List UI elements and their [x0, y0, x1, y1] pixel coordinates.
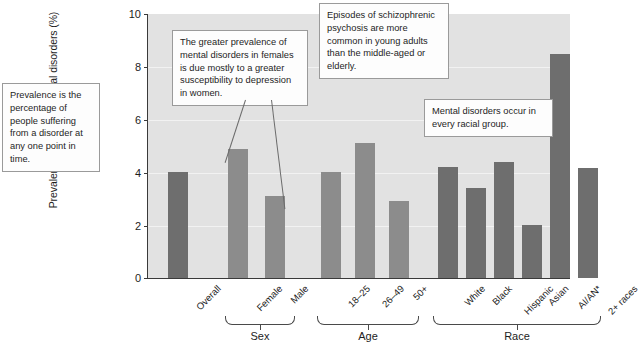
bracket-sex	[225, 316, 295, 325]
bar-female	[228, 149, 248, 278]
callout-age-psychosis: Episodes of schizophrenic psychosis are …	[319, 3, 449, 79]
group-label-age: Age	[358, 330, 378, 342]
bar-race-ai-an	[550, 54, 570, 278]
x-label-age-50-plus: 50+	[411, 283, 430, 302]
bracket-race	[433, 316, 601, 325]
x-label-male: Male	[288, 283, 310, 305]
group-label-race: Race	[504, 330, 530, 342]
bar-race-black	[466, 188, 486, 278]
x-label-race-ai-an: AI/AN*	[575, 283, 603, 311]
ytick-label-4: 4	[114, 167, 148, 179]
x-label-race-black: Black	[490, 283, 514, 307]
bar-age-26-49	[355, 143, 375, 278]
x-label-female: Female	[254, 283, 284, 313]
callout-text: Episodes of schizophrenic psychosis are …	[327, 9, 441, 73]
callout-text: The greater prevalence of mental disorde…	[180, 36, 300, 100]
ytick-label-8: 8	[114, 61, 148, 73]
x-label-race-white: White	[462, 283, 487, 308]
x-label-age-18-25: 18–25	[346, 283, 372, 309]
bar-age-50-plus	[389, 201, 409, 278]
ytick-label-10: 10	[114, 8, 148, 20]
ytick-label-0: 0	[114, 272, 148, 284]
bar-age-18-25	[321, 172, 341, 278]
callout-sex-difference: The greater prevalence of mental disorde…	[172, 30, 308, 106]
x-label-race-2-plus: 2+ races	[606, 283, 639, 317]
callout-text: Mental disorders occur in every racial g…	[432, 105, 545, 131]
bar-race-white	[438, 167, 458, 278]
ytick-label-2: 2	[114, 220, 148, 232]
bar-overall	[168, 172, 188, 278]
callout-prevalence-definition: Prevalence is the percentage of people s…	[2, 83, 100, 172]
bracket-age	[317, 316, 419, 325]
bar-race-asian	[522, 225, 542, 278]
x-label-overall: Overall	[194, 283, 223, 312]
group-label-sex: Sex	[251, 330, 270, 342]
ytick-label-6: 6	[114, 114, 148, 126]
bar-male	[265, 196, 285, 278]
x-label-age-26-49: 26–49	[380, 283, 406, 309]
callout-text: Prevalence is the percentage of people s…	[10, 89, 92, 166]
callout-race-universality: Mental disorders occur in every racial g…	[424, 99, 553, 137]
bar-race-2-plus	[578, 168, 598, 278]
bar-race-hispanic	[494, 162, 514, 278]
